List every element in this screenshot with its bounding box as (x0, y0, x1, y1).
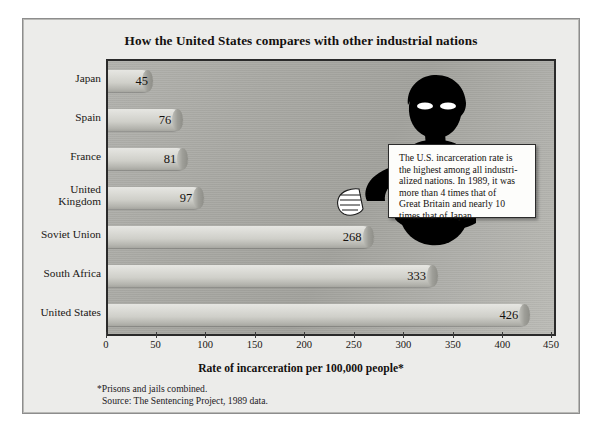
bar-row: 268 (108, 226, 374, 248)
bar-end-cap (427, 265, 438, 287)
category-label-line: France (23, 150, 101, 163)
callout-line-3: alized nations. In 1989, it was (399, 175, 526, 187)
category-label-line: United States (23, 306, 101, 319)
bar-end-cap (177, 148, 188, 170)
footnote-prisons: *Prisons and jails combined. (97, 383, 268, 395)
x-axis-tick-label: 250 (346, 339, 362, 350)
x-axis-tick-label: 300 (395, 339, 411, 350)
x-axis-tick (354, 332, 355, 338)
x-axis-tick (106, 332, 107, 338)
x-axis-tick-label: 0 (103, 339, 108, 350)
plot-area: 45768197268333426 (106, 59, 556, 336)
infographic-page: How the United States compares with othe… (0, 0, 611, 440)
bar-value-label: 333 (386, 267, 426, 285)
category-label: Japan (23, 72, 101, 85)
category-label-line: Kingdom (23, 195, 101, 208)
bar-row: 45 (108, 70, 153, 92)
bar (108, 304, 530, 326)
x-axis-tick (255, 332, 256, 338)
bar-row: 76 (108, 109, 183, 131)
category-label: UnitedKingdom (23, 183, 101, 208)
bar-value-label: 268 (322, 228, 362, 246)
category-label-line: United (23, 183, 101, 196)
category-label: Spain (23, 111, 101, 124)
callout-line-1: The U.S. incarceration rate is (399, 152, 526, 164)
bar-end-cap (519, 304, 530, 326)
bar-row: 81 (108, 148, 188, 170)
page-title: How the United States compares with othe… (23, 33, 579, 49)
bar-row: 333 (108, 265, 438, 287)
x-axis-tick (403, 332, 404, 338)
x-axis-tick-label: 50 (150, 339, 161, 350)
x-axis-tick-label: 450 (543, 339, 559, 350)
category-label-line: Spain (23, 111, 101, 124)
bar-end-cap (193, 187, 204, 209)
category-labels: JapanSpainFranceUnitedKingdomSoviet Unio… (23, 59, 101, 332)
bar-value-label: 426 (478, 306, 518, 324)
category-label: France (23, 150, 101, 163)
x-axis-tick-label: 400 (494, 339, 510, 350)
callout-line-6: times that of Japan. (399, 210, 526, 222)
x-axis-title: Rate of incarceration per 100,000 people… (23, 362, 579, 375)
bar-row: 97 (108, 187, 204, 209)
category-label: Soviet Union (23, 228, 101, 241)
category-label-line: South Africa (23, 267, 101, 280)
x-axis-tick (551, 332, 552, 338)
bar-end-cap (363, 226, 374, 248)
bar-value-label: 45 (108, 72, 148, 90)
callout-line-4: more than 4 times that of (399, 187, 526, 199)
x-axis-tick-label: 100 (197, 339, 213, 350)
x-axis-tick-label: 200 (296, 339, 312, 350)
footnote-source: Source: The Sentencing Project, 1989 dat… (97, 395, 268, 407)
bar-value-label: 76 (131, 111, 171, 129)
callout-line-2: the highest among all industri- (399, 164, 526, 176)
x-axis-tick (304, 332, 305, 338)
bar-end-cap (172, 109, 183, 131)
x-axis-tick (502, 332, 503, 338)
x-axis-tick (205, 332, 206, 338)
category-label-line: Japan (23, 72, 101, 85)
bar-value-label: 81 (136, 150, 176, 168)
bar-row: 426 (108, 304, 530, 326)
category-label: United States (23, 306, 101, 319)
footnotes: *Prisons and jails combined. Source: The… (97, 383, 268, 407)
x-axis: 050100150200250300350400450 (106, 332, 552, 362)
category-label: South Africa (23, 267, 101, 280)
chart-frame: How the United States compares with othe… (22, 18, 580, 414)
category-label-line: Soviet Union (23, 228, 101, 241)
callout-box: The U.S. incarceration rate is the highe… (388, 144, 536, 218)
x-axis-tick (156, 332, 157, 338)
x-axis-tick (453, 332, 454, 338)
x-axis-tick-label: 150 (247, 339, 263, 350)
x-axis-tick-label: 350 (445, 339, 461, 350)
bar-value-label: 97 (152, 189, 192, 207)
callout-line-5: Great Britain and nearly 10 (399, 198, 526, 210)
